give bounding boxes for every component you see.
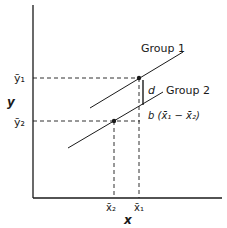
group-1-mean-point <box>137 76 141 80</box>
group-2-mean-point <box>112 119 116 123</box>
x2-bar-label: x̄₂ <box>106 202 116 213</box>
group-2-label: Group 2 <box>166 84 210 97</box>
y-axis-label: y <box>7 95 16 109</box>
group-1-line <box>90 52 183 108</box>
group-1-label: Group 1 <box>141 42 185 55</box>
d-label: d <box>148 84 156 97</box>
regression-diagram: Group 1 Group 2 d b (x̄₁ − x̄₂) y x ȳ₁ ȳ… <box>0 0 227 228</box>
y2-bar-label: ȳ₂ <box>14 116 25 129</box>
slope-term-label: b (x̄₁ − x̄₂) <box>148 110 200 121</box>
x1-bar-label: x̄₁ <box>134 202 144 213</box>
y1-bar-label: ȳ₁ <box>14 72 25 85</box>
x-axis-label: x <box>123 213 133 227</box>
